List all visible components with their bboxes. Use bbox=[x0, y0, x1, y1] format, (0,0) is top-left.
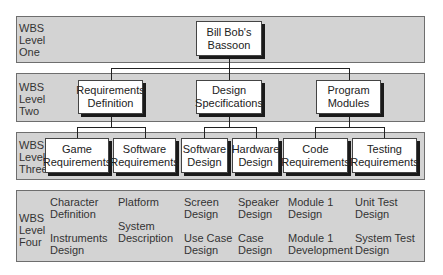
node-text: Definition bbox=[76, 97, 144, 110]
leaf-text: Character bbox=[50, 196, 98, 208]
leaf-text: Design bbox=[184, 208, 219, 220]
node-bill-bobs-bassoon: Bill Bob'sBassoon bbox=[196, 21, 262, 56]
node-text: Design bbox=[183, 156, 226, 169]
node-software-requirements: SoftwareRequirements bbox=[113, 138, 176, 173]
leaf-text: Description bbox=[118, 232, 173, 244]
connector bbox=[315, 127, 385, 128]
connector bbox=[145, 127, 146, 138]
level-one-label: WBS Level One bbox=[19, 22, 45, 58]
node-text: Software bbox=[183, 143, 226, 156]
leaf-text: Module 1 bbox=[288, 196, 333, 208]
leaf-text: Instruments bbox=[50, 232, 107, 244]
connector bbox=[229, 68, 230, 80]
leaf-platform: Platform bbox=[118, 196, 159, 208]
node-text: Software bbox=[110, 143, 178, 156]
connector bbox=[229, 114, 230, 127]
node-game-requirements: GameRequirements bbox=[45, 138, 109, 173]
leaf-speaker-design: SpeakerDesign bbox=[238, 196, 279, 220]
level-four-label: WBS Level Four bbox=[19, 212, 45, 248]
node-text: Design bbox=[232, 156, 280, 169]
connector bbox=[77, 127, 78, 138]
leaf-text: Platform bbox=[118, 196, 159, 208]
connector bbox=[111, 114, 112, 127]
label-line: WBS bbox=[19, 81, 45, 93]
leaf-module-1-development: Module 1Development bbox=[288, 232, 353, 256]
leaf-character-definition: CharacterDefinition bbox=[50, 196, 98, 220]
leaf-text: System Test bbox=[355, 232, 415, 244]
node-testing-requirements: TestingRequirements bbox=[352, 138, 417, 173]
node-text: Requirements bbox=[76, 84, 144, 97]
leaf-text: Design bbox=[288, 208, 333, 220]
label-line: WBS bbox=[19, 212, 45, 224]
node-text: Specifications bbox=[195, 97, 263, 110]
leaf-text: Design bbox=[355, 208, 398, 220]
leaf-text: Design bbox=[184, 244, 232, 256]
leaf-module-1-design: Module 1Design bbox=[288, 196, 333, 220]
node-code-requirements: CodeRequirements bbox=[283, 138, 348, 173]
connector bbox=[256, 127, 257, 138]
connector bbox=[204, 127, 205, 138]
connector bbox=[204, 127, 257, 128]
node-text: Requirements bbox=[350, 156, 418, 169]
node-design-specifications: DesignSpecifications bbox=[196, 80, 262, 114]
leaf-text: System bbox=[118, 220, 173, 232]
node-text: Hardware bbox=[232, 143, 280, 156]
connector bbox=[349, 68, 350, 80]
label-line: Level bbox=[19, 93, 45, 105]
leaf-text: Design bbox=[238, 244, 272, 256]
leaf-text: Definition bbox=[50, 208, 98, 220]
leaf-text: Design bbox=[50, 244, 107, 256]
node-text: Requirements bbox=[110, 156, 178, 169]
node-hardware-design: HardwareDesign bbox=[232, 138, 279, 173]
leaf-screen-design: ScreenDesign bbox=[184, 196, 219, 220]
node-program-modules: ProgramModules bbox=[316, 80, 381, 114]
leaf-system-description: SystemDescription bbox=[118, 220, 173, 244]
connector bbox=[229, 56, 230, 68]
node-text: Testing bbox=[350, 143, 418, 156]
leaf-text: Module 1 bbox=[288, 232, 353, 244]
label-line: One bbox=[19, 46, 45, 58]
leaf-text: Design bbox=[238, 208, 279, 220]
leaf-text: Design bbox=[355, 244, 415, 256]
node-text: Modules bbox=[327, 97, 369, 110]
node-text: Bill Bob's bbox=[207, 26, 252, 39]
connector bbox=[384, 127, 385, 138]
label-line: Two bbox=[19, 105, 45, 117]
leaf-text: Use Case bbox=[184, 232, 232, 244]
leaf-unit-test-design: Unit TestDesign bbox=[355, 196, 398, 220]
node-software-design: SoftwareDesign bbox=[181, 138, 228, 173]
leaf-instruments-design: InstrumentsDesign bbox=[50, 232, 107, 256]
node-text: Program bbox=[327, 84, 369, 97]
node-text: Game bbox=[43, 143, 111, 156]
leaf-text: Screen bbox=[184, 196, 219, 208]
node-requirements-definition: RequirementsDefinition bbox=[78, 80, 143, 114]
leaf-system-test-design: System TestDesign bbox=[355, 232, 415, 256]
level-two-label: WBS Level Two bbox=[19, 81, 45, 117]
leaf-case-design: CaseDesign bbox=[238, 232, 272, 256]
node-text: Requirements bbox=[281, 156, 349, 169]
leaf-text: Unit Test bbox=[355, 196, 398, 208]
label-line: Four bbox=[19, 236, 45, 248]
label-line: Level bbox=[19, 34, 45, 46]
connector bbox=[111, 68, 112, 80]
connector bbox=[315, 127, 316, 138]
label-line: WBS bbox=[19, 22, 45, 34]
connector bbox=[349, 114, 350, 127]
connector bbox=[77, 127, 146, 128]
node-text: Bassoon bbox=[207, 39, 252, 52]
connector bbox=[111, 68, 350, 69]
node-text: Code bbox=[281, 143, 349, 156]
leaf-text: Speaker bbox=[238, 196, 279, 208]
leaf-use-case-design: Use CaseDesign bbox=[184, 232, 232, 256]
leaf-text: Development bbox=[288, 244, 353, 256]
node-text: Design bbox=[195, 84, 263, 97]
leaf-text: Case bbox=[238, 232, 272, 244]
label-line: Level bbox=[19, 224, 45, 236]
node-text: Requirements bbox=[43, 156, 111, 169]
